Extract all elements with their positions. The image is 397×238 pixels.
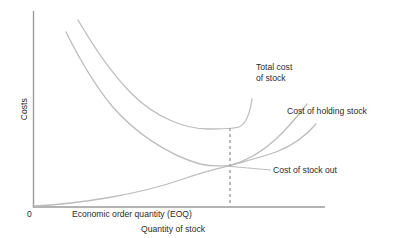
annotation-cost-of-holding-stock: Cost of holding stock bbox=[287, 106, 367, 117]
annotation-total-cost-line2: of stock bbox=[256, 73, 286, 83]
annotation-total-cost-of-stock: Total costof stock bbox=[256, 62, 292, 83]
chart-canvas bbox=[0, 0, 397, 238]
origin-tick-label: 0 bbox=[27, 209, 32, 220]
x-axis-title: Quantity of stock bbox=[141, 224, 205, 235]
annotation-total-cost-line1: Total cost bbox=[256, 62, 292, 72]
annotation-economic-order-quantity: Economic order quantity (EOQ) bbox=[72, 209, 192, 220]
annotation-cost-of-stock-out: Cost of stock out bbox=[273, 165, 337, 176]
total-cost-of-stock-curve bbox=[78, 20, 252, 129]
cost-of-holding-stock-curve bbox=[66, 32, 230, 166]
eoq-chart-figure: Total costof stock Cost of holding stock… bbox=[0, 0, 397, 238]
y-axis-title: Costs bbox=[19, 83, 30, 135]
stock-out-leader-line bbox=[231, 167, 271, 171]
